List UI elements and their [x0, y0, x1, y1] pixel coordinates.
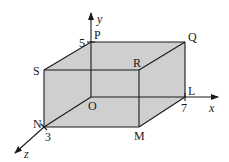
x-tick-value: 7: [181, 101, 187, 115]
y-axis-label: y: [96, 12, 103, 26]
cuboid-diagram: y x z 5 7 3 P Q S R O L N M: [0, 0, 229, 162]
z-tick-value: 3: [45, 130, 51, 144]
vertex-label-R: R: [133, 56, 141, 70]
vertex-label-M: M: [134, 129, 145, 143]
y-tick-value: 5: [79, 36, 85, 50]
vertex-label-P: P: [94, 28, 101, 42]
x-axis-label: x: [208, 101, 215, 115]
vertex-label-Q: Q: [188, 30, 197, 44]
vertex-label-L: L: [188, 84, 195, 98]
vertex-label-N: N: [33, 117, 42, 131]
z-axis-label: z: [23, 147, 29, 161]
vertex-label-S: S: [33, 64, 40, 78]
vertex-label-O: O: [88, 99, 97, 113]
